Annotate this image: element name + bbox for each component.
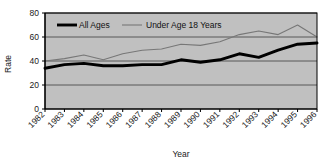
x-tick-label-1985: 1985 [84,109,105,130]
y-tick-label-60: 60 [30,32,40,42]
x-tick-label-1989: 1989 [162,109,183,130]
y-axis-tick-labels: 020406080 [30,8,40,114]
y-tick-label-20: 20 [30,80,40,90]
y-tick-label-80: 80 [30,8,40,18]
chart-svg: 020406080 198219831984198519861987198819… [0,0,330,166]
x-tick-label-1996: 1996 [298,109,319,130]
y-axis-title: Rate [3,55,13,73]
x-axis-tick-labels: 1982198319841985198619871988198919901991… [26,109,319,130]
x-tick-label-1993: 1993 [240,109,261,130]
x-tick-label-1982: 1982 [26,109,47,130]
x-tick-label-1987: 1987 [123,109,144,130]
x-tick-label-1984: 1984 [65,109,86,130]
x-tick-label-1988: 1988 [143,109,164,130]
x-tick-label-1986: 1986 [104,109,125,130]
x-tick-label-1991: 1991 [201,109,222,130]
x-tick-label-1983: 1983 [45,109,66,130]
x-tick-label-1990: 1990 [181,109,202,130]
x-tick-label-1992: 1992 [220,109,241,130]
x-tick-label-1995: 1995 [279,109,300,130]
line-chart-figure: 020406080 198219831984198519861987198819… [0,0,330,166]
legend-label-all-ages: All Ages [79,20,110,30]
x-tick-label-1994: 1994 [259,109,280,130]
x-axis-title: Year [172,149,189,159]
y-tick-label-40: 40 [30,56,40,66]
legend-label-under-18: Under Age 18 Years [146,20,222,30]
